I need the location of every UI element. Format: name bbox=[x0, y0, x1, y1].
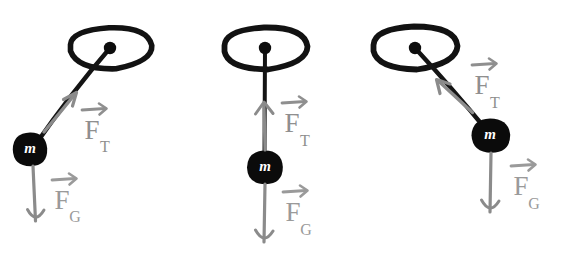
tension-arrow-right bbox=[437, 80, 473, 113]
gravity-symbol-left: F bbox=[54, 185, 69, 215]
gravity-symbol-middle: F bbox=[285, 197, 300, 227]
gravity-label-middle: F G bbox=[283, 186, 312, 238]
panel-middle: m F T F bbox=[225, 27, 313, 242]
mass-label-left: m bbox=[24, 140, 36, 156]
gravity-arrow-right bbox=[482, 153, 500, 212]
gravity-subscript-left: G bbox=[69, 208, 81, 225]
mass-label-middle: m bbox=[259, 158, 271, 174]
tension-symbol-left: F bbox=[84, 115, 99, 145]
tension-subscript-right: T bbox=[490, 94, 500, 111]
panel-right: m F T F bbox=[374, 27, 541, 213]
pendulum-diagram: m F T F bbox=[0, 0, 562, 262]
tension-subscript-middle: T bbox=[300, 132, 310, 149]
tension-label-left: F T bbox=[82, 104, 110, 155]
gravity-subscript-middle: G bbox=[300, 221, 312, 238]
tension-label-middle: F T bbox=[282, 97, 310, 149]
mass-label-right: m bbox=[484, 126, 496, 142]
gravity-label-right: F G bbox=[511, 160, 540, 212]
tension-label-right: F T bbox=[472, 59, 500, 111]
gravity-label-left: F G bbox=[52, 174, 81, 225]
panel-left: m F T F bbox=[13, 28, 152, 225]
tension-subscript-left: T bbox=[100, 138, 110, 155]
figure-canvas: m F T F bbox=[0, 0, 562, 262]
mass-bob-right: m bbox=[472, 119, 511, 153]
gravity-arrow-middle bbox=[256, 184, 274, 242]
mass-bob-middle: m bbox=[247, 151, 283, 185]
gravity-symbol-right: F bbox=[513, 171, 528, 201]
pivot-dot-middle bbox=[259, 42, 271, 54]
gravity-arrow-left bbox=[28, 166, 45, 221]
tension-symbol-right: F bbox=[474, 70, 489, 100]
pivot-dot-left bbox=[104, 42, 116, 54]
tension-symbol-middle: F bbox=[284, 108, 299, 138]
mass-bob-left: m bbox=[13, 132, 47, 166]
tension-arrow-left bbox=[44, 93, 77, 133]
tension-arrow-middle bbox=[256, 102, 274, 150]
gravity-subscript-right: G bbox=[528, 195, 540, 212]
pivot-dot-right bbox=[409, 42, 421, 54]
